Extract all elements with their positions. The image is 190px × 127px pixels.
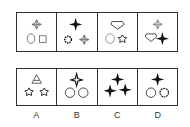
- question-cell-3: [98, 13, 138, 51]
- pentagon-star-icon: [40, 88, 49, 96]
- question-row: [16, 12, 178, 52]
- four-point-star-icon: [103, 84, 116, 97]
- square-icon: [39, 36, 46, 43]
- question-cell-1: [17, 13, 57, 51]
- four-point-star-icon: [118, 83, 131, 96]
- circle-icon: [105, 34, 114, 44]
- question-cell-4: [138, 13, 177, 51]
- gear-icon: [65, 36, 72, 43]
- pentagon-star-icon: [118, 35, 127, 43]
- triangle-a-icon: [32, 75, 41, 84]
- circle-icon: [146, 88, 155, 97]
- option-label-b: B: [57, 110, 98, 120]
- heart-shield-icon: [110, 22, 123, 30]
- gear-icon: [160, 88, 169, 97]
- cross-star-outline-icon: [32, 20, 42, 30]
- four-point-star-icon: [151, 73, 164, 86]
- option-cell-a[interactable]: [17, 69, 57, 105]
- options-row: [16, 68, 178, 106]
- circle-icon: [27, 34, 35, 44]
- four-point-star-icon: [69, 18, 82, 31]
- four-point-star-icon: [71, 74, 82, 86]
- circle-icon: [66, 88, 75, 97]
- circle-icon: [79, 88, 88, 97]
- question-cell-2: [57, 13, 97, 51]
- option-label-a: A: [16, 110, 57, 120]
- option-label-c: C: [97, 110, 138, 120]
- option-cell-d[interactable]: [138, 69, 177, 105]
- option-cell-c[interactable]: [98, 69, 138, 105]
- cross-star-outline-icon: [153, 20, 163, 30]
- option-cell-b[interactable]: [57, 69, 97, 105]
- option-label-d: D: [138, 110, 179, 120]
- option-labels: A B C D: [16, 110, 178, 120]
- heart-shield-icon: [145, 34, 156, 42]
- pentagon-star-icon: [25, 88, 34, 96]
- four-point-star-icon: [110, 73, 123, 86]
- cross-star-outline-icon: [80, 35, 90, 45]
- four-point-star-icon: [155, 32, 168, 45]
